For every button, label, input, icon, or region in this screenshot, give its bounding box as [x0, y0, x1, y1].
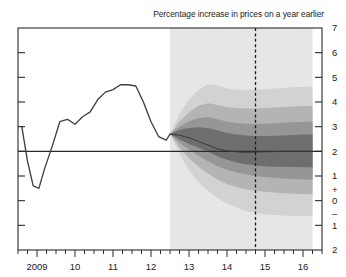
- y-axis-label: 1: [332, 220, 337, 231]
- x-axis-label: 12: [146, 261, 157, 272]
- y-axis-label: 2: [332, 244, 337, 255]
- y-axis-label: 3: [332, 121, 337, 132]
- x-axis-label: 11: [108, 261, 118, 272]
- x-axis-label: 10: [70, 261, 81, 272]
- y-axis-positive-sign: +: [332, 184, 338, 195]
- y-axis-label: 5: [332, 72, 337, 83]
- x-axis: 200910111213141516: [18, 250, 322, 272]
- y-axis-label: 6: [332, 47, 337, 58]
- x-axis-label: 14: [222, 261, 233, 272]
- y-axis-label: 1: [332, 170, 337, 181]
- y-axis-label: 0: [332, 195, 337, 206]
- y-axis-label: 4: [332, 96, 337, 107]
- chart-plot-area: 7654321012+– 200910111213141516: [0, 0, 346, 277]
- y-axis-negative-sign: –: [332, 208, 338, 219]
- historical-line: [22, 85, 170, 189]
- x-axis-label: 16: [298, 261, 309, 272]
- x-axis-label: 2009: [26, 261, 47, 272]
- fan-chart: Percentage increase in prices on a year …: [0, 0, 346, 277]
- y-axis-label: 2: [332, 146, 337, 157]
- y-axis-label: 7: [332, 22, 337, 33]
- x-axis-label: 15: [260, 261, 271, 272]
- x-axis-label: 13: [184, 261, 195, 272]
